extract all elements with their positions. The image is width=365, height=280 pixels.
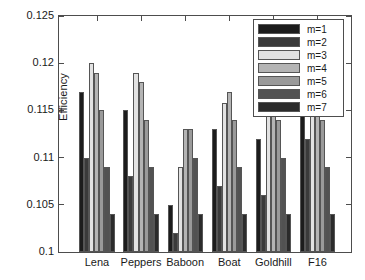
bar bbox=[286, 214, 291, 252]
bar bbox=[198, 214, 203, 252]
legend-swatch bbox=[258, 50, 300, 60]
x-tick-mark-top bbox=[185, 16, 186, 21]
y-tick-mark bbox=[59, 252, 64, 253]
y-tick-label: 0.1 bbox=[39, 245, 54, 258]
legend-label: m=6 bbox=[307, 89, 327, 100]
legend-swatch bbox=[258, 37, 300, 47]
chart-legend: m=1m=2m=3m=4m=5m=6m=7 bbox=[253, 19, 344, 117]
y-tick-mark bbox=[59, 16, 64, 17]
y-tick-mark-right bbox=[346, 252, 351, 253]
x-tick-label: Baboon bbox=[166, 256, 204, 269]
bar bbox=[330, 214, 335, 252]
x-tick-label: Goldhill bbox=[255, 256, 292, 269]
y-tick-mark bbox=[59, 157, 64, 158]
x-tick-label: F16 bbox=[308, 256, 327, 269]
legend-item: m=6 bbox=[258, 88, 339, 100]
y-tick-mark-right bbox=[346, 16, 351, 17]
bar bbox=[154, 214, 159, 252]
x-tick-mark-top bbox=[97, 16, 98, 21]
x-tick-label: Lena bbox=[85, 256, 109, 269]
y-tick-mark bbox=[59, 63, 64, 64]
y-axis-label: Efficiency bbox=[57, 73, 69, 121]
legend-item: m=3 bbox=[258, 49, 339, 61]
y-tick-mark bbox=[59, 204, 64, 205]
legend-item: m=2 bbox=[258, 36, 339, 48]
legend-label: m=5 bbox=[307, 76, 327, 87]
y-tick-mark-right bbox=[346, 157, 351, 158]
legend-label: m=1 bbox=[307, 24, 327, 35]
bar bbox=[242, 214, 247, 252]
y-tick-label: 0.105 bbox=[26, 198, 54, 211]
x-tick-label: Boat bbox=[218, 256, 241, 269]
y-tick-label: 0.115 bbox=[27, 103, 54, 116]
chart-figure: 0.10.1050.110.1150.120.125 LenaPeppersBa… bbox=[0, 0, 365, 280]
y-tick-mark-right bbox=[346, 110, 351, 111]
legend-swatch bbox=[258, 24, 300, 34]
legend-item: m=4 bbox=[258, 62, 339, 74]
legend-swatch bbox=[258, 102, 300, 112]
y-tick-label: 0.12 bbox=[33, 56, 54, 69]
legend-swatch bbox=[258, 76, 300, 86]
y-tick-label: 0.11 bbox=[33, 151, 54, 164]
legend-label: m=7 bbox=[307, 102, 327, 113]
y-tick-label: 0.125 bbox=[26, 9, 54, 22]
legend-swatch bbox=[258, 89, 300, 99]
legend-item: m=5 bbox=[258, 75, 339, 87]
y-tick-mark-right bbox=[346, 204, 351, 205]
x-tick-mark-top bbox=[229, 16, 230, 21]
y-tick-mark-right bbox=[346, 63, 351, 64]
legend-label: m=3 bbox=[307, 50, 327, 61]
legend-label: m=4 bbox=[307, 63, 327, 74]
bar bbox=[110, 214, 115, 252]
legend-swatch bbox=[258, 63, 300, 73]
legend-label: m=2 bbox=[307, 37, 327, 48]
legend-item: m=7 bbox=[258, 101, 339, 113]
legend-item: m=1 bbox=[258, 23, 339, 35]
x-tick-label: Peppers bbox=[121, 256, 162, 269]
x-tick-mark-top bbox=[141, 16, 142, 21]
